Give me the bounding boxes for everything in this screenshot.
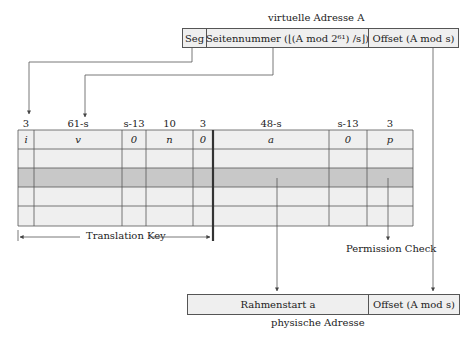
diagram-lines: [0, 0, 472, 337]
